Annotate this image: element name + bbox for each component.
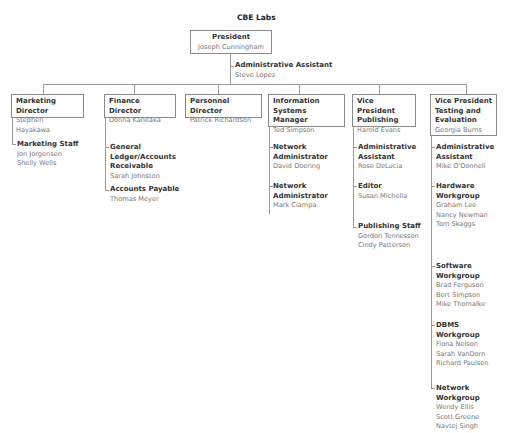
connector	[105, 118, 106, 190]
connector	[353, 147, 357, 148]
connector	[218, 84, 219, 94]
department-box-marketing: Marketing Director Stephen Hayakawa	[11, 94, 84, 118]
department-box-personnel: Personnel Director Patrick Richardson	[185, 94, 262, 118]
connector	[431, 147, 435, 148]
department-box-finance: Finance Director Donna Kaneaka	[104, 94, 176, 118]
connector	[269, 127, 270, 214]
sub-general-ledger: General Ledger/Accounts Receivable Sarah…	[110, 143, 180, 181]
connector	[43, 84, 44, 94]
department-box-testing: Vice President Testing and Evaluation Ge…	[430, 94, 497, 136]
president-name: Joseph Cunningham	[195, 43, 267, 53]
sub-hardware-workgroup: Hardware Workgroup Graham Lee Nancy Newm…	[436, 182, 492, 230]
connector	[431, 186, 435, 187]
connector	[43, 84, 466, 85]
president-assistant: Administrative Assistant Steve Lopez	[235, 61, 332, 80]
sub-network-admin-2: Network Administrator Mark Ciampa	[273, 182, 339, 211]
sub-marketing-staff: Marketing Staff Jon Jorgensen Shelly Wel…	[17, 140, 78, 169]
connector	[431, 325, 435, 326]
connector	[353, 127, 354, 227]
connector	[431, 388, 435, 389]
sub-testing-admin: Administrative Assistant Mike O'Donnell	[436, 143, 496, 172]
connector	[353, 227, 357, 228]
sub-network-workgroup: Network Workgroup Wendy Ellis Scott Gree…	[436, 384, 510, 432]
sub-editor: Editor Susan Michella	[358, 182, 407, 201]
connector	[134, 84, 135, 94]
connector	[466, 84, 467, 94]
department-box-publishing: Vice President Publishing Harold Evans	[352, 94, 416, 127]
chart-title: CBE Labs	[237, 13, 276, 22]
connector	[12, 144, 16, 145]
sub-publishing-admin: Administrative Assistant Rose DeLucia	[358, 143, 414, 172]
connector	[379, 84, 380, 94]
sub-accounts-payable: Accounts Payable Thomas Meyer	[110, 185, 179, 204]
connector	[353, 186, 357, 187]
connector	[12, 118, 13, 144]
connector	[105, 147, 109, 148]
sub-software-workgroup: Software Workgroup Brad Ferguson Bert Si…	[436, 262, 492, 310]
connector	[431, 266, 435, 267]
sub-publishing-staff: Publishing Staff Gordon Tennesson Cindy …	[358, 222, 421, 251]
sub-network-admin-1: Network Administrator David Doering	[273, 143, 339, 172]
connector	[431, 136, 432, 388]
connector	[230, 66, 234, 67]
connector	[105, 190, 109, 191]
connector	[299, 84, 300, 94]
department-box-information-systems: Information Systems Manager Ted Simpson	[268, 94, 345, 127]
president-box: President Joseph Cunningham	[190, 30, 272, 54]
connector	[230, 54, 231, 84]
sub-dbms-workgroup: DBMS Workgroup Fiona Nelson Sarah VanDor…	[436, 321, 492, 369]
president-role: President	[195, 33, 267, 43]
